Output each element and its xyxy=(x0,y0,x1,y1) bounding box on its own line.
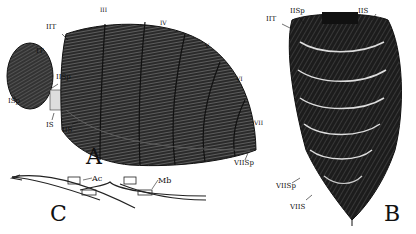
label-a-iii: III xyxy=(100,7,107,13)
label-a-vi: VI xyxy=(236,76,243,82)
label-a-iisp: IISp xyxy=(56,74,71,81)
label-c-mb: Mb xyxy=(158,177,171,185)
label-b-iis: IIS xyxy=(358,8,368,15)
label-a-iv: IV xyxy=(160,20,167,26)
label-a-it: IT xyxy=(36,48,43,55)
label-a-v: V xyxy=(205,43,209,49)
label-b-iisp: IISp xyxy=(290,8,305,15)
panel-label-c: C xyxy=(50,203,67,225)
figure-illustration xyxy=(0,0,416,234)
label-a-iit: IIT xyxy=(46,24,56,31)
panel-label-a: A xyxy=(86,146,102,168)
panel-a-drawing xyxy=(7,22,256,166)
label-b-iit: IIT xyxy=(266,16,276,23)
label-b-viisp: VIISp xyxy=(276,183,296,190)
label-c-ac: Ac xyxy=(92,175,102,183)
label-a-isp: ISp xyxy=(8,98,20,105)
panel-c-drawing xyxy=(12,175,206,208)
label-a-viisp: VIISp xyxy=(234,160,254,167)
panel-b-drawing xyxy=(289,12,401,226)
label-a-iis: IIS xyxy=(62,127,72,134)
label-b-viis: VIIS xyxy=(290,204,305,211)
label-a-is: IS xyxy=(46,122,54,129)
panel-label-b: B xyxy=(384,203,400,225)
label-a-vii: VII xyxy=(254,120,263,126)
